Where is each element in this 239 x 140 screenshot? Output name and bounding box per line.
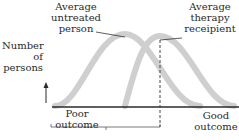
y-axis-label-line: Number <box>2 40 43 51</box>
good-outcome-label: Good outcome <box>192 110 239 132</box>
poor-outcome-label-line: outcome <box>52 119 102 130</box>
untreated-label: Average untreated person <box>46 1 106 34</box>
y-axis-arrowhead-icon <box>44 82 49 88</box>
poor-outcome-label: Poor outcome <box>52 108 102 130</box>
therapy-label: Average therapy receipient <box>180 1 239 34</box>
good-outcome-label-line: Good <box>192 110 239 121</box>
therapy-label-line: Average <box>180 1 239 12</box>
untreated-label-line: Average <box>46 1 106 12</box>
untreated-label-line: person <box>46 23 106 34</box>
y-axis-label-line: of <box>2 51 43 62</box>
y-axis-label: Number of persons <box>2 40 43 73</box>
poor-outcome-label-line: Poor <box>52 108 102 119</box>
therapy-label-line: therapy <box>180 12 239 23</box>
y-axis-label-line: persons <box>2 62 43 73</box>
good-outcome-label-line: outcome <box>192 121 239 132</box>
untreated-label-line: untreated <box>46 12 106 23</box>
therapy-label-line: receipient <box>180 23 239 34</box>
